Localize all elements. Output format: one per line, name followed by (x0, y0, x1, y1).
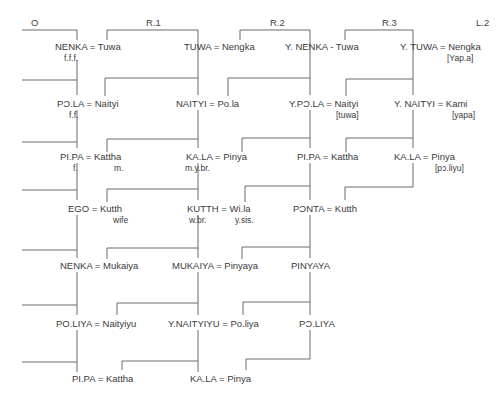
kin-node: KUTTH = Wi.la (187, 203, 251, 214)
header-r2: R.2 (270, 17, 285, 28)
kin-term: [Yap.a] (447, 53, 473, 63)
kin-node: Y.PƆ.LA = Naityi (289, 98, 358, 109)
kin-node: TUWA = Nengka (184, 41, 255, 52)
kin-term: [pɔ.liyu] (435, 163, 464, 173)
header-o: O (31, 17, 38, 28)
kin-node: PI.PA = Kattha (297, 151, 358, 162)
kin-node: PI.PA = Kattha (72, 373, 133, 384)
kin-node: Y. NENKA - Tuwa (285, 41, 359, 52)
kin-node: PƆ.LA = Naityi (57, 98, 119, 109)
kin-term: w.br. (189, 215, 206, 225)
kin-term: m. (114, 163, 123, 173)
kin-node: NENKA = Tuwa (55, 41, 121, 52)
header-l2: L.2 (476, 17, 489, 28)
header-r1: R.1 (146, 17, 161, 28)
kin-node: PƆNTA = Kutth (293, 203, 357, 214)
kin-term: f. (73, 163, 78, 173)
kin-node: Y. TUWA = Nengka (400, 41, 481, 52)
kin-term: f.f.f. (64, 53, 78, 63)
header-r3: R.3 (382, 17, 397, 28)
kin-node: PINYAYA (291, 260, 330, 271)
kin-term: m.y.br. (185, 163, 210, 173)
kin-term: [tuwa] (336, 110, 359, 120)
kin-node: Y.NAITYIYU = Po.liya (168, 318, 259, 329)
kin-node: KA.LA = Pinya (190, 373, 251, 384)
kinship-diagram: O R.1 R.2 R.3 L.2 NENKA = Tuwa f.f.f. PƆ… (0, 0, 502, 405)
kin-node: Y. NAITYI = Kami (394, 98, 467, 109)
kin-node: MUKAIYA = Pinyaya (172, 260, 258, 271)
kin-node: PƆ.LIYA (299, 318, 335, 329)
kin-term: wife (113, 215, 128, 225)
kin-node: NAITYI = Po.la (176, 98, 239, 109)
kin-node: KA.LA = Pinya (186, 151, 247, 162)
kin-term: f.f. (69, 110, 78, 120)
kin-node: PI.PA = Kattha (60, 151, 121, 162)
kin-term: [yapa] (452, 110, 475, 120)
kin-node-ego: EGO = Kutth (68, 203, 122, 214)
kin-term: y.sis. (235, 215, 254, 225)
kin-node: KA.LA = Pinya (394, 151, 455, 162)
kin-node: PO.LIYA = Naityiyu (56, 318, 136, 329)
kin-node: NENKA = Mukaiya (60, 260, 138, 271)
